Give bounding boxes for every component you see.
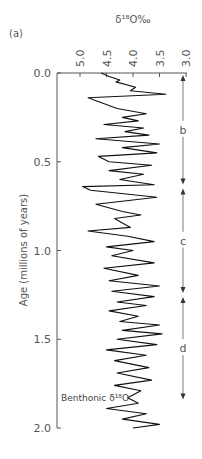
segment-label: d: [180, 342, 187, 355]
segments: bcd: [180, 75, 187, 399]
x-tick-label: 3.0: [180, 50, 193, 68]
series: [83, 73, 166, 428]
x-axis-title: δ¹⁸O‰: [115, 14, 150, 25]
series-annotation: Benthonic δ¹⁸O: [61, 393, 129, 403]
segment-label: b: [180, 124, 187, 137]
arrow-head-up: [181, 75, 186, 81]
y-axis-title: Age (millions of years): [18, 194, 29, 306]
chart: (a) δ¹⁸O‰ Age (millions of years) 5.04.5…: [0, 0, 202, 459]
y-tick-label: 0.0: [34, 67, 52, 80]
x-tick-label: 5.0: [74, 50, 87, 68]
arrow-head-down: [181, 287, 186, 293]
y-tick-label: 1.5: [34, 333, 52, 346]
x-tick-label: 4.5: [101, 50, 114, 68]
y-tick-label: 0.5: [34, 156, 52, 169]
arrow-head-up: [181, 297, 186, 303]
arrow-head-down: [181, 393, 186, 399]
arrow-head-down: [181, 179, 186, 185]
y-tick-label: 2.0: [34, 422, 52, 435]
x-tick-label: 3.5: [154, 50, 167, 68]
x-tick-label: 4.0: [127, 50, 140, 68]
panel-label: (a): [9, 28, 23, 39]
segment-label: c: [180, 235, 186, 248]
y-tick-label: 1.0: [34, 245, 52, 258]
arrow-head-up: [181, 189, 186, 195]
series-line-benthonic: [83, 73, 166, 428]
